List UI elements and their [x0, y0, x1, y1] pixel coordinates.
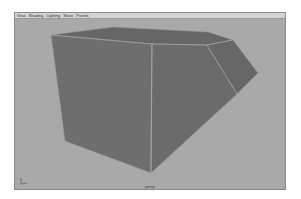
- mesh-object[interactable]: [15, 13, 286, 190]
- camera-label: persp: [15, 184, 285, 189]
- viewport-panel[interactable]: View Shading Lighting Show Panels persp: [14, 12, 286, 190]
